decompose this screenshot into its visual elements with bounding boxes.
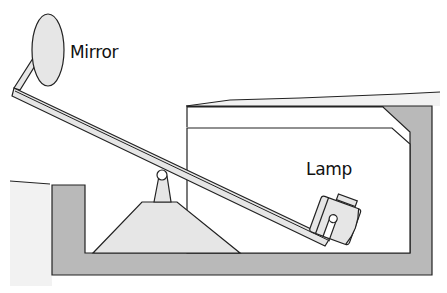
mirror [32, 14, 64, 86]
lamp-label: Lamp [306, 159, 352, 179]
pivot-pin [157, 170, 167, 180]
ground-left [10, 181, 52, 286]
apparatus-drawing [0, 0, 447, 293]
mirror-label: Mirror [70, 42, 118, 62]
diagram-canvas: Mirror Lamp [0, 0, 447, 293]
